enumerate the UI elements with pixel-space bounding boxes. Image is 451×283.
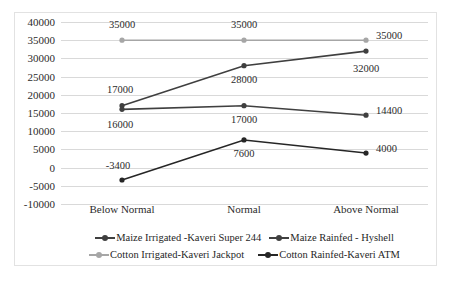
y-axis-tick-label: 10000 <box>28 126 56 137</box>
series-marker <box>363 113 368 118</box>
data-point-label: 35000 <box>109 20 135 31</box>
data-point-label: 7600 <box>234 149 255 160</box>
series-marker <box>119 177 124 182</box>
data-point-label: 4000 <box>376 144 397 155</box>
series-marker <box>119 38 124 43</box>
y-axis-tick-label: 0 <box>50 162 56 173</box>
series-marker <box>363 49 368 54</box>
series-marker <box>241 38 246 43</box>
series-marker <box>363 150 368 155</box>
data-point-label: 32000 <box>353 64 379 75</box>
y-axis-tick-label: 25000 <box>28 71 56 82</box>
data-point-label: 17000 <box>231 114 257 125</box>
legend-item[interactable]: Cotton Irrigated-Kaveri Jackpot <box>89 249 244 260</box>
legend-key-icon <box>95 233 115 242</box>
y-axis-tick-label: -10000 <box>24 199 55 210</box>
legend-item[interactable]: Cotton Rainfed-Kaveri ATM <box>258 249 400 260</box>
legend-item[interactable]: Maize Irrigated -Kaveri Super 244 <box>95 232 261 243</box>
data-point-label: 35000 <box>376 31 402 42</box>
chart-container: 4000035000300002500020000150001000050000… <box>14 12 437 266</box>
plot-area: 4000035000300002500020000150001000050000… <box>61 22 428 204</box>
legend-label: Maize Irrigated -Kaveri Super 244 <box>116 232 261 243</box>
data-point-label: 16000 <box>107 120 133 131</box>
x-axis-category-label: Below Normal <box>89 204 154 215</box>
y-axis-tick-label: 30000 <box>28 53 56 64</box>
series-marker <box>241 63 246 68</box>
data-point-label: -3400 <box>106 161 131 172</box>
legend-key-icon <box>258 250 278 259</box>
x-axis-category-label: Normal <box>227 204 261 215</box>
y-axis-tick-label: 15000 <box>28 108 56 119</box>
legend-row-1: Maize Irrigated -Kaveri Super 244Maize R… <box>61 229 428 246</box>
y-axis-tick-label: 35000 <box>28 35 56 46</box>
legend-label: Maize Rainfed - Hyshell <box>290 232 394 243</box>
legend-item[interactable]: Maize Rainfed - Hyshell <box>269 232 394 243</box>
legend-row-2: Cotton Irrigated-Kaveri JackpotCotton Ra… <box>61 246 428 263</box>
category-axis-labels: Below NormalNormalAbove Normal <box>61 204 428 220</box>
data-point-label: 17000 <box>107 84 133 95</box>
chart-legend: Maize Irrigated -Kaveri Super 244Maize R… <box>61 229 428 263</box>
series-marker <box>241 137 246 142</box>
data-point-label: 14400 <box>376 106 402 117</box>
legend-key-icon <box>269 233 289 242</box>
legend-key-icon <box>89 250 109 259</box>
series-marker <box>119 107 124 112</box>
series-marker <box>241 103 246 108</box>
y-axis-tick-label: -5000 <box>29 180 55 191</box>
y-axis-tick-label: 20000 <box>28 89 56 100</box>
x-axis-category-label: Above Normal <box>333 204 399 215</box>
data-point-label: 28000 <box>231 74 257 85</box>
series-line <box>122 140 366 180</box>
legend-label: Cotton Rainfed-Kaveri ATM <box>279 249 400 260</box>
y-axis-tick-label: 5000 <box>33 144 55 155</box>
y-axis-tick-label: 40000 <box>28 17 56 28</box>
data-point-label: 35000 <box>231 20 257 31</box>
series-marker <box>363 38 368 43</box>
legend-label: Cotton Irrigated-Kaveri Jackpot <box>110 249 244 260</box>
